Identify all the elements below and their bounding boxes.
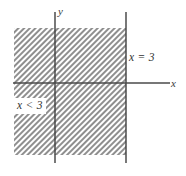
coordinate-plane-svg [0, 0, 186, 176]
x-axis-label: x [171, 78, 176, 89]
region-inequality-label: x < 3 [14, 98, 46, 114]
inequality-graph-figure: y x x = 3 x < 3 [0, 0, 186, 176]
y-axis-label: y [58, 6, 63, 17]
shaded-region-x-less-than-3 [14, 28, 126, 155]
boundary-line-label: x = 3 [129, 52, 155, 64]
